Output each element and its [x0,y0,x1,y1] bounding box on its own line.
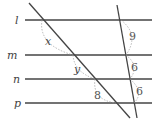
label-9: 9 [129,30,136,43]
label-6a: 6 [131,61,138,74]
label-l: l [15,14,19,27]
label-8: 8 [94,89,101,102]
label-m: m [7,49,17,62]
label-y: y [73,63,81,76]
label-6b: 6 [136,85,143,98]
label-x: x [45,35,52,48]
parallel-lines-diagram: l m n p x y 8 9 6 6 [0,0,163,135]
label-p: p [14,97,21,110]
label-n: n [13,73,20,86]
